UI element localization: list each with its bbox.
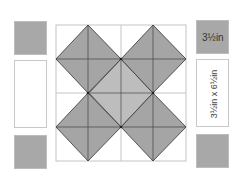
quilt-block [0, 0, 242, 179]
